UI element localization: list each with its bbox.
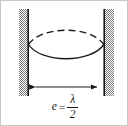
standing-wave [29, 30, 104, 59]
right-wall [104, 9, 114, 96]
wave-trough-solid-arc [29, 45, 104, 59]
right-wall-hatching [105, 9, 114, 96]
standing-wave-figure: e = λ 2 [0, 0, 128, 126]
left-wall [19, 9, 28, 96]
figure-canvas [1, 1, 128, 126]
left-wall-hatching [19, 9, 28, 96]
wave-crest-dashed-arc [29, 30, 104, 44]
